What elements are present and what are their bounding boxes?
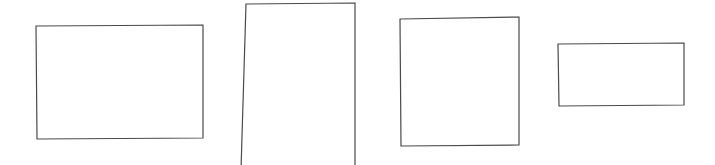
rectangle-1[interactable]: Rectangle 1 [36, 25, 203, 139]
rectangle-3[interactable]: Rectangle 3 [400, 17, 519, 146]
rectangle-4[interactable]: Rectangle 4 [558, 43, 684, 106]
shapes-layer: Rectangle 1Rectangle 2Rectangle 3Rectang… [0, 0, 715, 165]
rectangle-2[interactable]: Rectangle 2 [241, 3, 355, 165]
drawing-canvas: Rectangle 1Rectangle 2Rectangle 3Rectang… [0, 0, 715, 165]
